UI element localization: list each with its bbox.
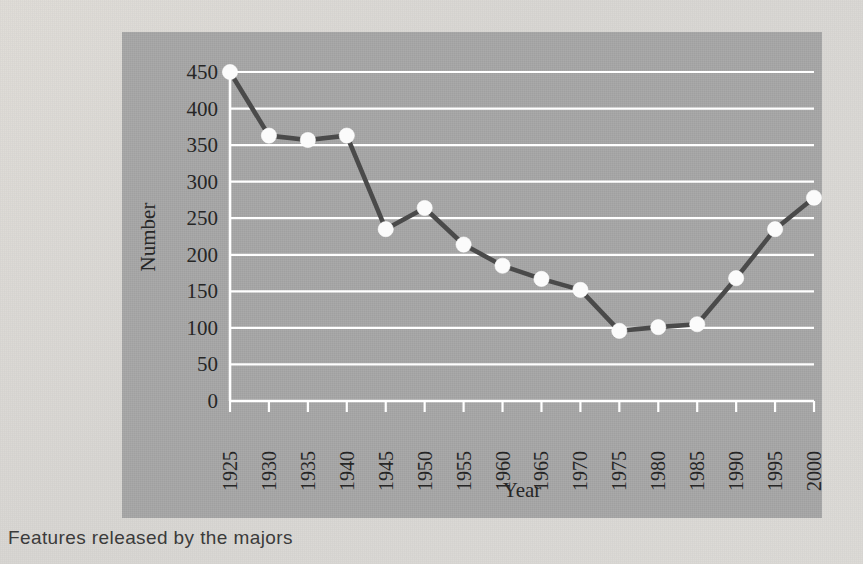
figure-caption: Features released by the majors — [8, 527, 708, 549]
y-tick-label: 50 — [197, 352, 218, 376]
y-tick-label: 150 — [187, 279, 219, 303]
data-point-marker — [495, 258, 510, 273]
x-tick-marks — [230, 401, 814, 412]
y-tick-label: 400 — [187, 97, 219, 121]
x-tick-label: 1970 — [569, 451, 591, 491]
x-tick-label: 1940 — [336, 451, 358, 491]
data-point-marker — [534, 271, 549, 286]
data-point-marker — [417, 200, 432, 215]
y-tick-label: 0 — [208, 389, 219, 413]
data-point-marker — [612, 323, 627, 338]
x-tick-label: 1995 — [764, 451, 786, 491]
y-tick-label: 250 — [187, 206, 219, 230]
y-tick-label: 450 — [187, 60, 219, 84]
x-tick-label: 1925 — [219, 451, 241, 491]
y-tick-label: 100 — [187, 316, 219, 340]
y-axis-title: Number — [136, 203, 160, 272]
x-tick-label: 1990 — [725, 451, 747, 491]
data-point-markers — [222, 64, 821, 338]
data-point-marker — [456, 237, 471, 252]
data-point-marker — [651, 320, 666, 335]
figure-panel: 050100150200250300350400450 192519301935… — [122, 32, 822, 518]
data-point-marker — [573, 282, 588, 297]
x-tick-label: 1980 — [647, 451, 669, 491]
x-tick-label: 1945 — [375, 451, 397, 491]
data-point-marker — [767, 222, 782, 237]
data-point-marker — [300, 132, 315, 147]
x-tick-label: 1930 — [258, 451, 280, 491]
data-point-marker — [729, 271, 744, 286]
data-point-marker — [806, 190, 821, 205]
data-point-marker — [222, 64, 237, 79]
x-tick-label: 1955 — [453, 451, 475, 491]
page-background: 050100150200250300350400450 192519301935… — [0, 0, 863, 564]
y-tick-label: 200 — [187, 243, 219, 267]
x-tick-label: 2000 — [803, 451, 822, 491]
x-tick-label: 1985 — [686, 451, 708, 491]
data-point-marker — [261, 128, 276, 143]
line-chart: 050100150200250300350400450 192519301935… — [122, 32, 822, 518]
x-tick-label: 1975 — [608, 451, 630, 491]
x-tick-label: 1935 — [297, 451, 319, 491]
data-point-marker — [378, 222, 393, 237]
y-tick-labels: 050100150200250300350400450 — [187, 60, 219, 413]
data-point-marker — [339, 128, 354, 143]
y-tick-label: 300 — [187, 170, 219, 194]
y-tick-label: 350 — [187, 133, 219, 157]
data-point-marker — [690, 317, 705, 332]
x-tick-label: 1950 — [414, 451, 436, 491]
gridlines — [230, 72, 814, 364]
x-axis-title: Year — [503, 478, 542, 502]
